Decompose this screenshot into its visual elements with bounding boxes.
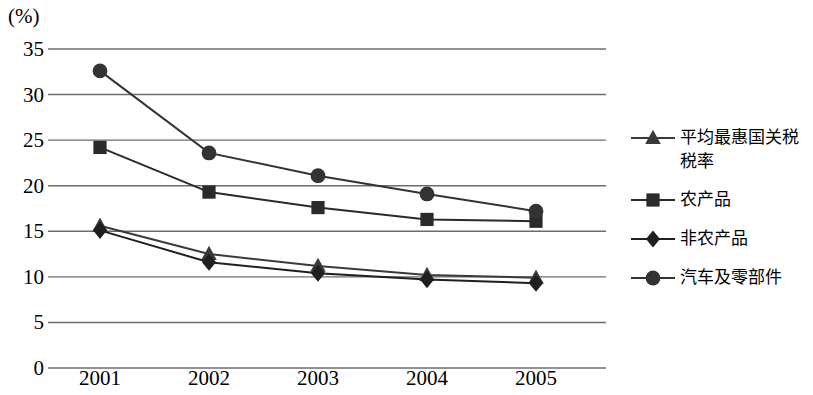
legend-label: 平均最惠国关税税率 bbox=[680, 125, 806, 173]
y-tick-label: 10 bbox=[0, 266, 44, 287]
square-marker bbox=[202, 185, 215, 198]
diamond-marker bbox=[93, 222, 107, 239]
legend-item-3[interactable]: 非农产品 bbox=[630, 226, 810, 251]
diamond-marker bbox=[630, 227, 676, 251]
tariff-line-chart: (%) 05101520253035 20012002200320042005 … bbox=[0, 0, 813, 395]
diamond-marker bbox=[646, 230, 660, 247]
circle-marker bbox=[202, 146, 217, 161]
circle-marker bbox=[420, 187, 435, 202]
legend-item-2[interactable]: 农产品 bbox=[630, 187, 810, 212]
y-tick-label: 5 bbox=[0, 312, 44, 333]
y-tick-label: 0 bbox=[0, 358, 44, 379]
circle-marker bbox=[93, 63, 108, 78]
square-marker bbox=[93, 141, 106, 154]
square-marker bbox=[630, 188, 676, 212]
series-3 bbox=[93, 222, 543, 292]
y-tick-label: 25 bbox=[0, 130, 44, 151]
x-tick-label-2002: 2002 bbox=[188, 368, 230, 389]
triangle-marker bbox=[630, 126, 676, 150]
x-tick-label-2004: 2004 bbox=[406, 368, 448, 389]
series-2 bbox=[93, 141, 542, 228]
legend-label: 非农产品 bbox=[680, 226, 806, 250]
x-tick-label-2003: 2003 bbox=[297, 368, 339, 389]
y-tick-label: 20 bbox=[0, 175, 44, 196]
x-tick-label-2001: 2001 bbox=[79, 368, 121, 389]
chart-legend: 平均最惠国关税税率农产品非农产品汽车及零部件 bbox=[630, 125, 810, 304]
series-4 bbox=[93, 63, 544, 218]
y-tick-label: 30 bbox=[0, 84, 44, 105]
y-tick-label: 15 bbox=[0, 221, 44, 242]
legend-item-1[interactable]: 平均最惠国关税税率 bbox=[630, 125, 810, 173]
square-marker bbox=[311, 201, 324, 214]
legend-label: 汽车及零部件 bbox=[680, 265, 806, 289]
series-line bbox=[100, 71, 536, 211]
circle-marker bbox=[529, 204, 544, 219]
x-tick-label-2005: 2005 bbox=[515, 368, 557, 389]
triangle-marker bbox=[645, 130, 661, 144]
square-marker bbox=[420, 213, 433, 226]
legend-item-4[interactable]: 汽车及零部件 bbox=[630, 265, 810, 290]
diamond-marker bbox=[420, 271, 434, 288]
square-marker bbox=[646, 193, 659, 206]
circle-marker bbox=[311, 168, 326, 183]
circle-marker bbox=[646, 271, 661, 286]
data-series-group bbox=[92, 63, 544, 291]
legend-label: 农产品 bbox=[680, 187, 806, 211]
circle-marker bbox=[630, 266, 676, 290]
y-tick-label: 35 bbox=[0, 39, 44, 60]
